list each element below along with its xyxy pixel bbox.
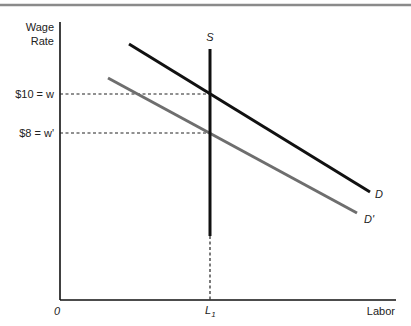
y-axis-label-rate: Rate bbox=[31, 35, 54, 47]
y-axis-label-wage: Wage bbox=[26, 21, 54, 33]
demand-label: D bbox=[375, 188, 383, 200]
origin-label: 0 bbox=[54, 305, 61, 317]
w-prime-tick-label: $8 = w' bbox=[19, 127, 54, 139]
w-tick-label: $10 = w bbox=[15, 88, 54, 100]
x-axis-label: Labor bbox=[367, 305, 395, 317]
demand-line bbox=[129, 44, 370, 192]
supply-label: S bbox=[206, 31, 214, 43]
l1-subscript: 1 bbox=[211, 310, 215, 319]
wage-chart: Wage Rate $10 = w $8 = w' S D D' 0 L1 La… bbox=[0, 0, 411, 326]
demand-prime-line bbox=[108, 78, 357, 213]
l1-tick-label: L1 bbox=[205, 304, 216, 319]
demand-prime-label: D' bbox=[364, 213, 375, 225]
